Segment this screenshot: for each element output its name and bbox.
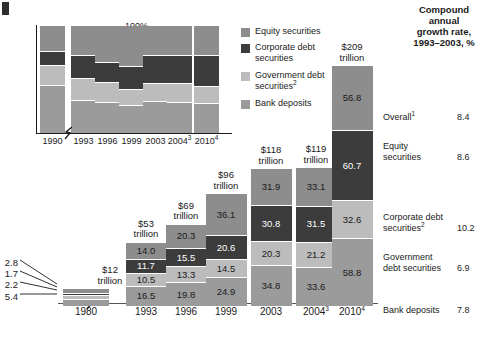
bottom-segment-bank-deposits: 34.8 [251,265,292,305]
growth-row-label: Corporate debtsecurities2 [383,212,455,234]
bottom-segment-government-debt-securities: 32.6 [332,200,373,238]
bottom-x-label-1999: 1999 [201,306,251,317]
segment-value-label: 14.5 [217,264,236,274]
bottom-bar-1996: 20.315.513.319.8 [166,225,207,303]
segment-value-label: 56.8 [343,93,362,103]
segment-value-label: 36.1 [217,210,236,220]
growth-row-value: 7.8 [457,305,497,316]
segment-value-label: 14.0 [137,246,156,256]
bottom-bar-1993: 14.011.710.516.5 [126,243,167,303]
bottom-segment-equity-securities: 56.8 [332,66,373,130]
callout-1980-value-4: 5.4 [2,292,18,302]
bottom-bar-2004: 33.131.521.233.6 [296,168,337,303]
growth-row-value: 8.4 [457,112,497,123]
segment-value-label: 58.8 [343,268,362,278]
segment-value-label: 11.7 [137,261,155,271]
bottom-total-label-2010: $209trillion [330,42,374,63]
segment-value-label: 60.7 [343,161,362,171]
bottom-segment-corporate-debt-securities: 31.5 [296,206,337,243]
segment-value-label: 34.8 [262,281,281,291]
segment-value-label: 33.6 [307,282,326,292]
bottom-segment-corporate-debt-securities: 15.5 [166,248,207,267]
bottom-segment-bank-deposits: 24.9 [206,277,247,306]
bottom-segment-government-debt-securities: 14.5 [206,259,247,276]
bottom-bar-1980 [63,289,109,303]
segment-value-label: 30.8 [262,219,281,229]
segment-value-label: 13.3 [177,270,196,280]
bottom-segment-corporate-debt-securities: 11.7 [126,259,167,273]
callout-1980-value-1: 2.8 [2,258,18,268]
bottom-segment-government-debt-securities: 21.2 [296,242,337,267]
bottom-total-label-1996: $69trillion [164,201,208,222]
bottom-bar-2010: 56.860.732.658.8 [332,66,373,303]
callout-1980-value-3: 2.2 [2,280,18,290]
bottom-total-label-2003: $118trillion [249,145,293,166]
growth-row-label: Governmentdebt securities [383,252,455,274]
bottom-segment-bank-deposits: 16.5 [126,286,167,306]
growth-rate-panel: Compoundannualgrowth rate,1993–2003, % O… [383,4,499,48]
segment-value-label: 15.5 [177,253,196,263]
growth-row-value: 8.6 [457,152,497,163]
segment-value-label: 20.3 [262,249,281,259]
segment-value-label: 21.2 [307,250,326,260]
bottom-segment-equity-securities: 14.0 [126,243,167,259]
segment-value-label: 31.9 [262,182,281,192]
bottom-segment-equity-securities: 31.9 [251,169,292,205]
segment-value-label: 32.6 [343,215,362,225]
bottom-segment-bank-deposits: 58.8 [332,238,373,306]
segment-value-label: 20.3 [177,231,196,241]
segment-value-label: 33.1 [307,182,326,192]
bottom-segment-corporate-debt-securities: 60.7 [332,130,373,200]
growth-row-label: Bank deposits [383,305,455,316]
growth-row-label: Overall1 [383,112,455,123]
growth-row-label: Equitysecurities [383,141,455,163]
callout-1980-value-2: 1.7 [2,269,18,279]
bottom-segment-bank-deposits: 19.8 [166,282,207,305]
segment-value-label: 20.6 [217,243,236,253]
bottom-segment-corporate-debt-securities: 30.8 [251,205,292,241]
bottom-segment-government-debt-securities: 10.5 [126,273,167,286]
bottom-segment-equity-securities: 20.3 [166,225,207,248]
bottom-segment-bank-deposits: 33.6 [296,267,337,306]
bottom-segment-government-debt-securities: 20.3 [251,241,292,265]
bottom-segment-equity-securities: 36.1 [206,194,247,235]
segment-value-label: 10.5 [137,275,156,285]
bottom-segment-government-debt-securities: 13.3 [166,266,207,282]
bottom-segment-bank-deposits [63,299,109,306]
bottom-bar-1999: 36.120.614.524.9 [206,194,247,303]
bottom-x-label-1980: 1980 [61,306,111,317]
segment-value-label: 16.5 [137,291,156,301]
growth-row-value: 6.9 [457,263,497,274]
growth-rate-heading: Compoundannualgrowth rate,1993–2003, % [389,4,499,48]
growth-row-value: 10.2 [457,223,497,234]
bottom-chart-panel: 2.81.72.25.4 $12trillion14.011.710.516.5… [0,0,380,338]
segment-value-label: 31.5 [307,219,326,229]
bottom-x-label-2003: 2003 [246,306,296,317]
bottom-total-label-1993: $53trillion [124,219,168,240]
segment-value-label: 24.9 [217,287,236,297]
bottom-total-label-1999: $96trillion [204,170,248,191]
bottom-segment-equity-securities: 33.1 [296,168,337,206]
bottom-segment-corporate-debt-securities: 20.6 [206,235,247,259]
bottom-bar-2003: 31.930.820.334.8 [251,169,292,303]
segment-value-label: 19.8 [177,290,196,300]
bottom-x-label-2010: 20104 [327,306,377,317]
